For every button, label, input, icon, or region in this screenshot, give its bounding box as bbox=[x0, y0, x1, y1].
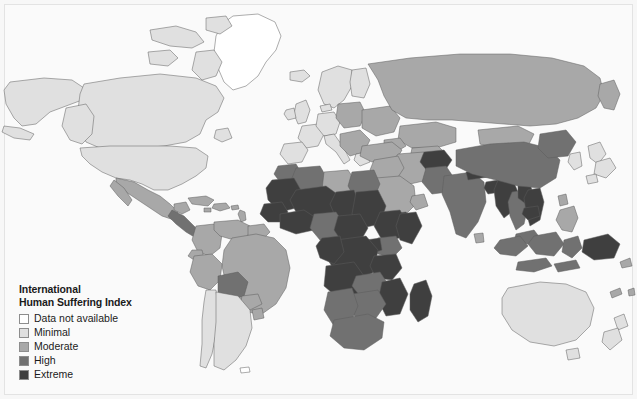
region-tasmania bbox=[566, 348, 580, 360]
legend-label: Minimal bbox=[34, 327, 70, 338]
region-norway-sweden bbox=[318, 66, 352, 108]
region-new-caledonia bbox=[610, 288, 622, 298]
legend-swatch bbox=[19, 370, 29, 380]
region-south-africa bbox=[330, 314, 384, 350]
region-uruguay bbox=[252, 308, 264, 320]
legend-row: Moderate bbox=[19, 340, 179, 354]
region-india bbox=[442, 172, 486, 238]
region-lesser-antilles bbox=[238, 210, 246, 222]
legend-title-line1: International bbox=[19, 283, 179, 296]
region-australia bbox=[502, 282, 594, 346]
region-falklands bbox=[240, 367, 250, 373]
region-solomon-islands bbox=[620, 258, 632, 268]
legend-label: High bbox=[34, 355, 56, 366]
legend-swatch bbox=[19, 342, 29, 352]
region-somalia bbox=[396, 212, 422, 244]
region-newfoundland bbox=[214, 128, 232, 142]
region-united-kingdom bbox=[294, 100, 310, 124]
region-hispaniola bbox=[212, 203, 230, 211]
region-arctic-islands bbox=[150, 26, 204, 48]
region-sri-lanka bbox=[474, 233, 484, 243]
region-cuba bbox=[188, 196, 214, 206]
legend-swatch bbox=[19, 328, 29, 338]
region-java bbox=[516, 258, 552, 272]
region-taiwan bbox=[558, 194, 568, 206]
region-philippines bbox=[556, 206, 578, 232]
legend-row: High bbox=[19, 354, 179, 368]
region-madagascar bbox=[410, 280, 432, 322]
region-jamaica bbox=[204, 208, 211, 212]
region-new-zealand-south bbox=[602, 328, 622, 350]
legend-label: Extreme bbox=[34, 369, 73, 380]
map-legend: International Human Suffering Index Data… bbox=[19, 283, 179, 382]
region-iberia bbox=[280, 142, 308, 164]
legend-title: International Human Suffering Index bbox=[19, 283, 179, 308]
region-aleutians bbox=[2, 126, 34, 140]
region-peru bbox=[190, 254, 222, 290]
world-map-figure: International Human Suffering Index Data… bbox=[0, 0, 637, 399]
region-papua-new-guinea bbox=[582, 234, 620, 260]
region-poland-baltics bbox=[336, 102, 366, 128]
legend-label: Moderate bbox=[34, 341, 78, 352]
region-russia bbox=[368, 54, 604, 126]
region-victoria-island bbox=[148, 50, 178, 66]
region-japan-kyushu bbox=[586, 174, 598, 184]
region-fiji bbox=[628, 288, 635, 296]
region-united-states bbox=[80, 146, 208, 190]
region-korea bbox=[568, 152, 582, 170]
region-canada bbox=[78, 74, 224, 150]
region-iceland bbox=[290, 70, 310, 82]
legend-row: Extreme bbox=[19, 368, 179, 382]
legend-label: Data not available bbox=[34, 313, 118, 324]
region-sulawesi bbox=[562, 236, 582, 258]
region-new-zealand-north bbox=[614, 314, 628, 330]
region-kamchatka bbox=[598, 80, 620, 110]
legend-row: Data not available bbox=[19, 312, 179, 326]
region-denmark bbox=[320, 104, 332, 112]
legend-items: Data not availableMinimalModerateHighExt… bbox=[19, 312, 179, 382]
region-finland bbox=[350, 68, 370, 98]
legend-swatch bbox=[19, 356, 29, 366]
region-ireland bbox=[284, 108, 296, 120]
region-lesser-sunda bbox=[554, 260, 580, 272]
region-kazakhstan bbox=[398, 122, 456, 148]
legend-swatch bbox=[19, 314, 29, 324]
region-mozambique bbox=[378, 278, 408, 316]
legend-title-line2: Human Suffering Index bbox=[19, 296, 179, 309]
region-puerto-rico bbox=[231, 205, 239, 210]
legend-row: Minimal bbox=[19, 326, 179, 340]
